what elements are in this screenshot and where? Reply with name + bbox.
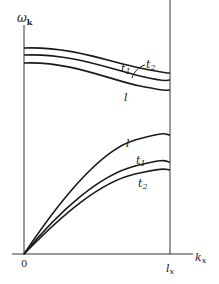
y-axis-label: ωk <box>17 11 33 27</box>
optical-l-label: l <box>124 91 128 104</box>
origin-label: 0 <box>21 258 27 269</box>
dispersion-diagram: ωk kx 0 lx t1 t2 l l t1 t2 <box>0 0 219 284</box>
acoustic-l-curve <box>24 134 170 254</box>
boundary-label: lx <box>166 262 175 276</box>
acoustic-t1-label: t1 <box>136 154 146 168</box>
acoustic-l-label: l <box>126 137 130 150</box>
acoustic-t2-curve <box>24 169 170 254</box>
optical-t2-label: t2 <box>146 58 156 72</box>
acoustic-t2-label: t2 <box>138 177 148 191</box>
acoustic-t1-curve <box>24 161 170 254</box>
x-axis-label: kx <box>195 251 207 265</box>
